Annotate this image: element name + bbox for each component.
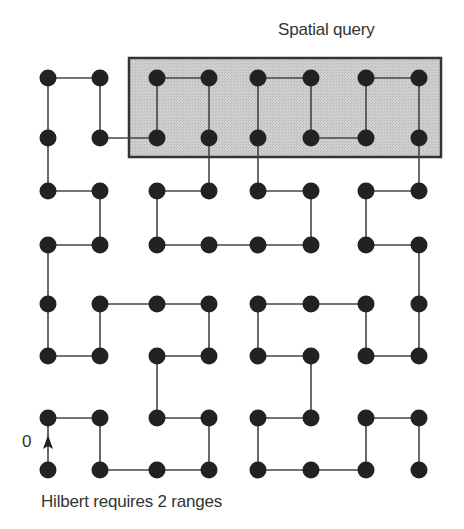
curve-node	[149, 348, 166, 365]
curve-node	[358, 296, 375, 313]
curve-node	[250, 410, 267, 427]
spatial-query-box	[129, 58, 441, 157]
curve-node	[250, 130, 267, 147]
curve-node	[411, 237, 428, 254]
curve-node	[303, 296, 320, 313]
curve-node	[92, 70, 109, 87]
curve-node	[358, 462, 375, 479]
curve-node	[40, 130, 57, 147]
curve-node	[411, 348, 428, 365]
curve-node	[40, 462, 57, 479]
curve-node	[303, 462, 320, 479]
curve-node	[201, 70, 218, 87]
curve-node	[149, 183, 166, 200]
curve-node	[92, 183, 109, 200]
curve-node	[201, 348, 218, 365]
curve-node	[92, 348, 109, 365]
curve-node	[149, 130, 166, 147]
curve-node	[149, 462, 166, 479]
curve-node	[149, 237, 166, 254]
curve-node	[250, 348, 267, 365]
curve-node	[201, 296, 218, 313]
caption: Hilbert requires 2 ranges	[41, 492, 222, 512]
curve-node	[40, 296, 57, 313]
curve-node	[40, 410, 57, 427]
curve-node	[358, 130, 375, 147]
curve-node	[149, 410, 166, 427]
curve-node	[250, 296, 267, 313]
curve-node	[411, 183, 428, 200]
curve-node	[411, 462, 428, 479]
curve-node	[303, 183, 320, 200]
curve-node	[201, 183, 218, 200]
curve-node	[303, 237, 320, 254]
curve-node	[92, 462, 109, 479]
curve-node	[201, 237, 218, 254]
curve-node	[92, 410, 109, 427]
curve-node	[250, 462, 267, 479]
curve-node	[358, 410, 375, 427]
curve-node	[201, 130, 218, 147]
curve-node	[411, 70, 428, 87]
curve-node	[358, 237, 375, 254]
curve-node	[201, 410, 218, 427]
curve-node	[358, 183, 375, 200]
curve-node	[149, 70, 166, 87]
curve-node	[303, 130, 320, 147]
curve-node	[92, 296, 109, 313]
curve-node	[303, 410, 320, 427]
curve-node	[358, 70, 375, 87]
curve-node	[411, 296, 428, 313]
curve-node	[40, 183, 57, 200]
curve-node	[40, 70, 57, 87]
curve-node	[250, 183, 267, 200]
curve-node	[358, 348, 375, 365]
curve-node	[411, 130, 428, 147]
curve-node	[411, 410, 428, 427]
origin-label: 0	[22, 432, 31, 452]
curve-node	[201, 462, 218, 479]
curve-node	[92, 130, 109, 147]
curve-node	[40, 237, 57, 254]
curve-node	[303, 348, 320, 365]
curve-node	[149, 296, 166, 313]
curve-node	[250, 237, 267, 254]
query-label: Spatial query	[278, 20, 375, 40]
curve-node	[92, 237, 109, 254]
curve-node	[250, 70, 267, 87]
curve-node	[40, 348, 57, 365]
curve-node	[303, 70, 320, 87]
hilbert-curve-diagram	[0, 0, 464, 529]
